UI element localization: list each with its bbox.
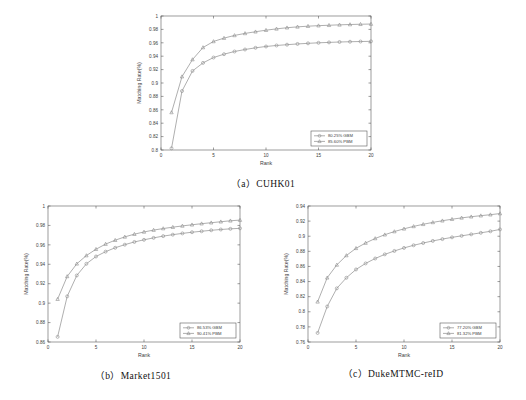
- x-tick-label: 10: [401, 345, 407, 350]
- series-line: [58, 220, 240, 299]
- legend: 86.53% GBM90.41% PBM: [180, 323, 236, 338]
- x-tick-label: 15: [316, 153, 322, 158]
- y-tick-label: 0.94: [149, 54, 158, 59]
- y-tick-label: 0.92: [36, 281, 45, 286]
- x-tick-label: 5: [95, 345, 98, 350]
- legend-label: 90.41% PBM: [197, 331, 222, 336]
- series-line: [58, 228, 240, 337]
- caption-dukemtmc-reid: （c）DukeMTMC-reID: [268, 366, 518, 380]
- x-tick-label: 0: [47, 345, 50, 350]
- x-tick-label: 15: [449, 345, 455, 350]
- legend-label: 80.25% GBM: [328, 133, 353, 138]
- y-tick-label: 0.98: [149, 27, 158, 32]
- y-tick-label: 0.8: [152, 148, 159, 153]
- y-tick-label: 0.84: [296, 279, 305, 284]
- y-tick-label: 0.96: [149, 41, 158, 46]
- y-tick-label: 0.92: [296, 219, 305, 224]
- y-tick-label: 0.98: [36, 223, 45, 228]
- legend: 77.20% GBM81.32% PBM: [440, 323, 496, 338]
- y-tick-label: 0.92: [149, 67, 158, 72]
- x-axis-label: Rank: [260, 160, 273, 166]
- chart-panel-cuhk01: 051015200.80.820.840.860.880.90.920.940.…: [113, 2, 413, 194]
- y-tick-label: 0.9: [299, 234, 306, 239]
- series-pbm: [316, 212, 502, 303]
- x-tick-label: 15: [189, 345, 195, 350]
- y-tick-label: 1: [155, 14, 158, 19]
- x-tick-label: 20: [368, 153, 374, 158]
- y-tick-label: 0.9: [39, 301, 46, 306]
- y-tick-label: 0.96: [36, 243, 45, 248]
- data-point-circle: [316, 331, 319, 334]
- y-tick-label: 0.88: [36, 320, 45, 325]
- chart-dukemtmc-reid: 051015200.760.780.80.820.840.860.880.90.…: [268, 196, 518, 368]
- x-tick-label: 10: [141, 345, 147, 350]
- caption-cuhk01: （a）CUHK01: [113, 176, 413, 190]
- y-tick-label: 0.76: [296, 340, 305, 345]
- y-tick-label: 0.88: [296, 249, 305, 254]
- x-tick-label: 20: [497, 345, 503, 350]
- series-line: [172, 24, 372, 112]
- y-tick-label: 0.8: [299, 309, 306, 314]
- series-gbm: [316, 228, 501, 335]
- series-pbm: [170, 22, 373, 114]
- y-tick-label: 0.9: [152, 81, 159, 86]
- y-tick-label: 0.82: [296, 294, 305, 299]
- legend-label: 85.60% PBM: [328, 139, 353, 144]
- x-tick-label: 0: [160, 153, 163, 158]
- y-tick-label: 0.86: [149, 108, 158, 113]
- legend-label: 81.32% PBM: [457, 331, 482, 336]
- series-line: [318, 214, 500, 302]
- y-tick-label: 1: [42, 204, 45, 209]
- y-axis-label: Matching Rate(%): [136, 62, 142, 104]
- y-tick-label: 0.94: [36, 262, 45, 267]
- legend-label: 77.20% GBM: [457, 325, 482, 330]
- y-tick-label: 0.88: [149, 94, 158, 99]
- y-tick-label: 0.82: [149, 134, 158, 139]
- legend: 80.25% GBM85.60% PBM: [311, 131, 367, 146]
- x-axis-label: Rank: [398, 352, 411, 358]
- chart-cuhk01: 051015200.80.820.840.860.880.90.920.940.…: [113, 2, 413, 178]
- x-tick-label: 0: [307, 345, 310, 350]
- x-tick-label: 20: [237, 345, 243, 350]
- y-tick-label: 0.86: [296, 264, 305, 269]
- legend-label: 86.53% GBM: [197, 325, 222, 330]
- chart-panel-dukemtmc-reid: 051015200.760.780.80.820.840.860.880.90.…: [268, 196, 518, 392]
- x-tick-label: 10: [263, 153, 269, 158]
- y-tick-label: 0.86: [36, 340, 45, 345]
- caption-market1501: （b）Market1501: [8, 368, 258, 382]
- chart-panel-market1501: 051015200.860.880.90.920.940.960.981Rank…: [8, 196, 258, 392]
- series-pbm: [56, 218, 242, 300]
- y-axis-label: Matching Rate(%): [283, 253, 289, 295]
- y-tick-label: 0.84: [149, 121, 158, 126]
- chart-market1501: 051015200.860.880.90.920.940.960.981Rank…: [8, 196, 258, 368]
- y-axis-label: Matching Rate(%): [23, 253, 29, 295]
- x-axis-label: Rank: [138, 352, 151, 358]
- x-tick-label: 5: [355, 345, 358, 350]
- y-tick-label: 0.78: [296, 325, 305, 330]
- plot-frame: [161, 16, 371, 150]
- series-gbm: [56, 227, 241, 339]
- y-tick-label: 0.94: [296, 204, 305, 209]
- series-line: [318, 229, 500, 333]
- x-tick-label: 5: [212, 153, 215, 158]
